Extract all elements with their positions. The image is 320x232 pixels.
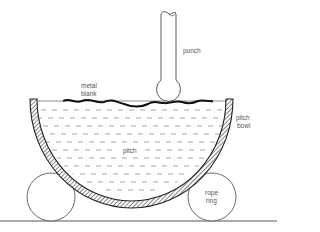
pitch-bowl-label-line2: bowl	[237, 121, 250, 130]
metal-blank-label-line2: blank	[81, 89, 97, 98]
rope-ring-label-line2: ring	[206, 196, 217, 205]
pitch-label: pitch	[123, 146, 137, 155]
punch	[157, 12, 181, 102]
punch-label: punch	[183, 46, 201, 55]
